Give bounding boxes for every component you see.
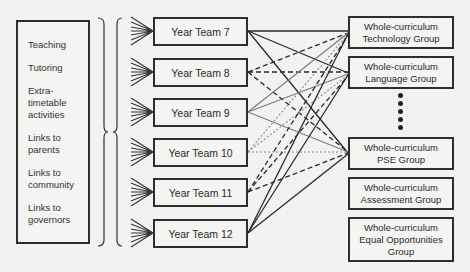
pse-group-box: Whole-curriculum PSE Group — [348, 137, 454, 170]
equal-opportunities-group-box: Whole-curriculum Equal Opportunities Gro… — [348, 217, 454, 262]
links-year-11 — [248, 35, 348, 192]
right-brace-icon — [98, 18, 108, 246]
year-team-8-box: Year Team 8 — [153, 58, 248, 87]
language-group-box: Whole-curriculum Language Group — [348, 56, 454, 89]
assessment-group-box: Whole-curriculum Assessment Group — [348, 177, 454, 210]
year-team-7-box: Year Team 7 — [153, 17, 248, 46]
fan-arrow-icon-11 — [131, 178, 153, 206]
fan-arrow-icon-7 — [131, 17, 153, 45]
fan-arrow-icon-10 — [131, 138, 153, 166]
left-brace-icon — [113, 18, 122, 246]
year-team-10-box: Year Team 10 — [153, 138, 248, 167]
links-year-12 — [248, 34, 348, 233]
year-team-11-box: Year Team 11 — [153, 178, 248, 207]
fan-arrow-icon-8 — [131, 58, 153, 86]
year-team-9-box: Year Team 9 — [153, 98, 248, 127]
year-team-12-box: Year Team 12 — [153, 219, 248, 248]
fan-arrow-icon-9 — [131, 98, 153, 126]
fan-arrow-icon-12 — [131, 219, 153, 247]
technology-group-box: Whole-curriculum Technology Group — [348, 16, 454, 49]
